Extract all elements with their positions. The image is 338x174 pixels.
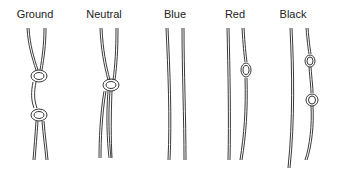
red-wire — [227, 28, 251, 160]
blue-wire — [166, 28, 186, 160]
neutral-wire — [99, 28, 119, 158]
ground-wire — [27, 28, 48, 160]
wire-diagram — [0, 0, 338, 174]
black-wire — [288, 28, 318, 168]
